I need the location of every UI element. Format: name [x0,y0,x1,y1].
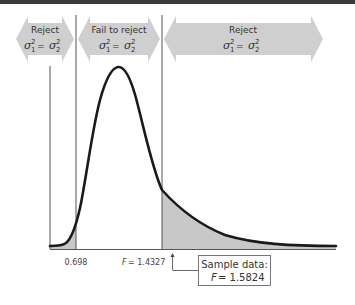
region-arrow-fail-to-reject: Fail to reject σ21 = σ22 [78,16,160,62]
region-arrow-reject-right: Reject σ21 = σ22 [164,16,323,62]
svg-text:2: 2 [131,38,135,46]
svg-text:=: = [236,41,244,51]
region-arrow-reject-left: Reject σ21 = σ22 [16,16,74,62]
f-distribution-chart: Reject σ21 = σ22 Fail to reject σ21 = σ2… [0,0,355,305]
svg-text:2: 2 [31,38,35,46]
svg-text:=: = [37,41,45,51]
region-label-fail-to-reject: Fail to reject [91,25,147,35]
svg-text:2: 2 [230,38,234,46]
sample-f-symbol: F [211,272,217,283]
f-distribution-curve [50,67,336,246]
svg-text:2: 2 [56,38,60,46]
sample-data-label: Sample data: [201,259,268,270]
region-label-reject-right: Reject [229,25,257,35]
svg-text:F: F [122,258,127,267]
svg-text:1: 1 [230,46,234,54]
sample-data-pointer [171,253,199,271]
svg-text:2: 2 [131,46,135,54]
critical-value-left: 0.698 [65,258,88,267]
critical-value-right: F = 1.4327 [122,258,165,267]
svg-text:1: 1 [31,46,35,54]
svg-text:2: 2 [255,38,259,46]
svg-text:2: 2 [56,46,60,54]
svg-text:2: 2 [255,46,259,54]
region-label-reject-left: Reject [31,25,59,35]
svg-text:= 1.4327: = 1.4327 [128,258,165,267]
sample-data-box: Sample data: F = 1.5824 [199,256,271,286]
svg-text:2: 2 [106,38,110,46]
svg-text:=: = [112,41,120,51]
sample-f-value: = 1.5824 [218,272,265,283]
svg-text:1: 1 [106,46,110,54]
